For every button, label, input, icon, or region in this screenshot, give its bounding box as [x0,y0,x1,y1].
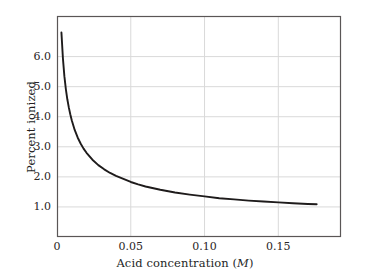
chart-figure: Acid concentration (M) Percent ionized 0… [0,0,370,278]
x-axis-unit: M [237,256,249,270]
x-tick-label-0: 0 [35,240,79,253]
x-axis-title-close: ) [249,256,254,270]
y-tick-label-1: 2.0 [21,170,51,183]
y-tick-label-4: 5.0 [21,80,51,93]
x-tick-label-1: 0.05 [109,240,153,253]
y-tick-label-0: 1.0 [21,200,51,213]
x-axis-title-text: Acid concentration ( [116,256,237,270]
x-tick-label-3: 0.15 [256,240,300,253]
y-tick-label-2: 3.0 [21,140,51,153]
x-axis-title: Acid concentration (M) [0,256,370,270]
y-tick-label-3: 4.0 [21,110,51,123]
chart-plot-area [0,0,370,278]
x-tick-label-2: 0.10 [183,240,227,253]
y-tick-label-5: 6.0 [21,50,51,63]
